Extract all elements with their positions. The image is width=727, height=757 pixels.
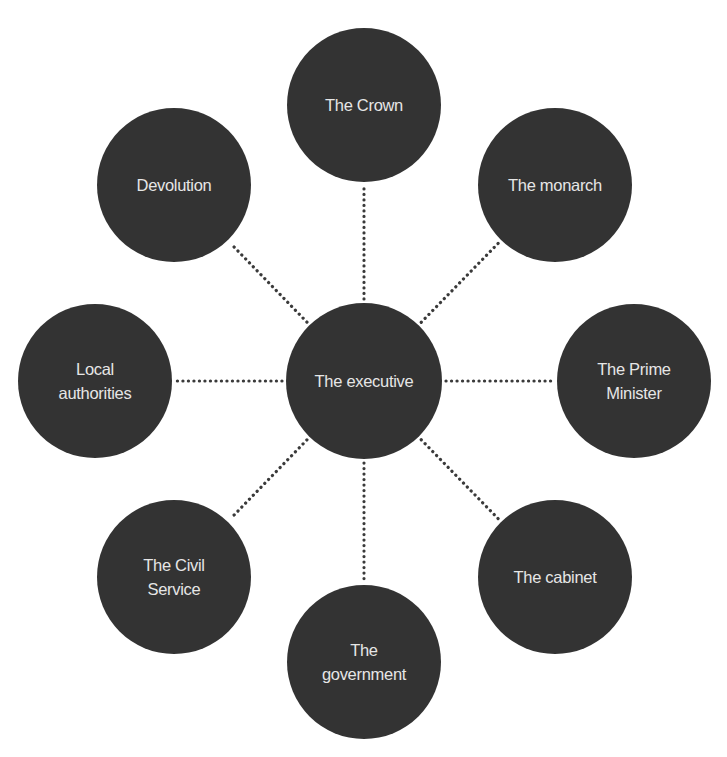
node-crown: The Crown — [287, 28, 441, 182]
node-label: The executive — [315, 372, 414, 390]
node-label: The cabinet — [514, 568, 598, 586]
node-government: Thegovernment — [287, 585, 441, 739]
connector-monarch — [421, 243, 498, 322]
node-label: Local — [76, 360, 114, 378]
node-label: Devolution — [137, 176, 212, 194]
node-label: The Crown — [325, 96, 403, 114]
node-label: The Prime — [597, 360, 671, 378]
node-label: Minister — [606, 384, 662, 402]
connector-cabinet — [421, 440, 498, 519]
node-civil-service: The CivilService — [97, 500, 251, 654]
node-circle — [18, 304, 172, 458]
node-local-authorities: Localauthorities — [18, 304, 172, 458]
connector-civil-service — [230, 440, 307, 519]
node-label: authorities — [59, 384, 132, 402]
nodes: The CrownThe monarchThe PrimeMinisterThe… — [18, 28, 711, 739]
node-circle — [97, 500, 251, 654]
node-monarch: The monarch — [478, 108, 632, 262]
executive-diagram: The CrownThe monarchThe PrimeMinisterThe… — [0, 0, 727, 757]
node-label: Service — [148, 580, 201, 598]
node-prime-minister: The PrimeMinister — [557, 304, 711, 458]
node-label: The Civil — [143, 556, 204, 574]
center-node: The executive — [286, 303, 442, 459]
connector-devolution — [230, 243, 307, 322]
node-label: The monarch — [508, 176, 602, 194]
node-circle — [557, 304, 711, 458]
node-circle — [287, 585, 441, 739]
node-label: The — [350, 641, 378, 659]
node-label: government — [322, 665, 407, 683]
node-cabinet: The cabinet — [478, 500, 632, 654]
node-devolution: Devolution — [97, 108, 251, 262]
